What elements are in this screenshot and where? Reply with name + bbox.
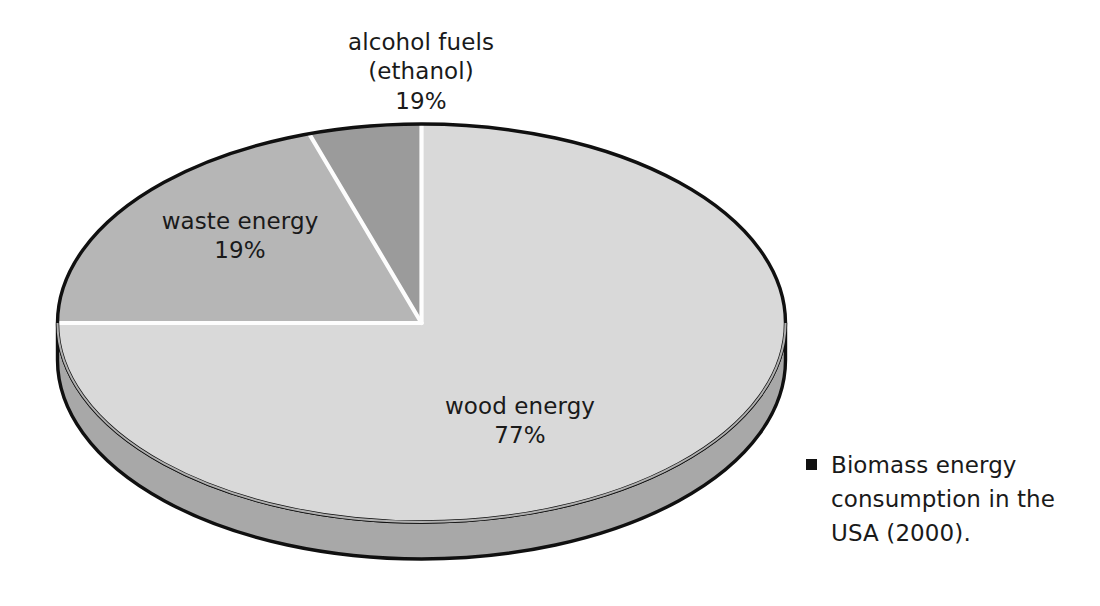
slice-value-waste: 19% <box>80 236 400 265</box>
slice-value-alcohol: 19% <box>241 87 601 116</box>
square-bullet-icon <box>806 459 817 470</box>
slice-label-wood-energy: wood energy 77% <box>355 392 685 451</box>
slice-label-wood-line1: wood energy <box>445 393 595 419</box>
slice-label-alcohol-line2: (ethanol) <box>368 58 474 84</box>
figure-caption-text: Biomass energy consumption in the USA (2… <box>831 448 1086 550</box>
slice-label-alcohol-fuels: alcohol fuels (ethanol) 19% <box>241 28 601 116</box>
slice-label-waste-line1: waste energy <box>162 208 319 234</box>
pie-chart-figure: alcohol fuels (ethanol) 19% waste energy… <box>0 0 1100 606</box>
slice-value-wood: 77% <box>355 421 685 450</box>
slice-label-waste-energy: waste energy 19% <box>80 207 400 266</box>
pie-top-face <box>57 124 785 522</box>
slice-label-alcohol-line1: alcohol fuels <box>348 29 494 55</box>
figure-caption: Biomass energy consumption in the USA (2… <box>806 448 1086 550</box>
